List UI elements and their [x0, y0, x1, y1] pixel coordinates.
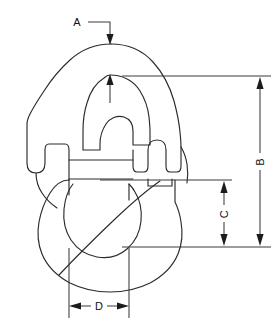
dimension-a-leader-line	[88, 22, 110, 38]
dimension-d-group: D	[69, 298, 129, 314]
dimension-c-arrowhead-bottom	[220, 234, 227, 246]
dimension-a-label: A	[73, 16, 81, 28]
extension-lines-group	[69, 76, 271, 318]
technical-drawing-canvas: A B C	[0, 0, 276, 327]
dimension-d-label: D	[95, 300, 103, 312]
dimension-c-label: C	[218, 210, 230, 218]
upper-eye-inner-outline	[83, 75, 150, 150]
dimension-c-group: C	[217, 181, 231, 246]
link-dimensional-drawing: A B C	[0, 0, 276, 327]
dimension-b-label: B	[254, 158, 266, 166]
left-arm-outline	[36, 173, 57, 208]
dimension-c-arrowhead-top	[220, 181, 227, 193]
dimension-b-arrowhead-bottom	[256, 234, 263, 246]
dimension-d-arrowhead-right	[117, 302, 129, 309]
part-outline-group	[27, 44, 188, 292]
right-flank-outline	[181, 147, 188, 183]
dimension-b-arrowhead-top	[256, 77, 263, 89]
dimension-a-arrowhead	[106, 34, 113, 45]
dimension-b-group: B	[253, 77, 267, 246]
lower-link-diagonal-edge	[59, 181, 160, 275]
dimension-a-group: A	[73, 16, 113, 103]
dimension-d-arrowhead-left	[69, 302, 81, 309]
upper-body-outer-outline	[111, 44, 181, 172]
